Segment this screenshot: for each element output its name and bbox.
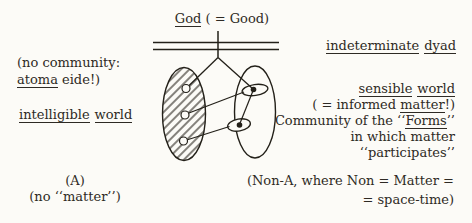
participates-line: ‘‘participates’’ — [275, 145, 455, 161]
informed-close: !) — [445, 97, 455, 112]
dyad-word-1: indeterminate — [326, 38, 419, 54]
no-community-line-2: atoma eide!) — [17, 71, 120, 88]
a-annotation: (A) (no ‘‘matter’’) — [10, 173, 140, 205]
sensible-world-line: sensibleworld — [275, 81, 455, 97]
fork-right-line — [218, 58, 253, 89]
no-community-note: (no community: atoma eide!) — [17, 54, 120, 88]
sensible-word: sensible — [359, 81, 413, 97]
god-word: God — [175, 11, 202, 27]
intelligible-word: intelligible — [19, 107, 90, 123]
god-suffix: ( = Good) — [201, 11, 269, 26]
atoma-word: atoma — [17, 72, 58, 88]
dyad-word-2: dyad — [424, 38, 456, 54]
community-open: Community of the ‘‘ — [275, 113, 406, 128]
form-node-top — [182, 85, 190, 93]
community-of-forms-line: Community of the ‘‘Forms’’ — [275, 113, 455, 129]
scanned-diagram-page: God ( = Good) indeterminatedyad (no comm… — [0, 0, 472, 223]
no-matter-label: (no ‘‘matter’’) — [10, 189, 140, 205]
community-close: ’’ — [447, 113, 455, 128]
a-label: (A) — [10, 173, 140, 189]
no-community-line-1: (no community: — [17, 54, 120, 71]
sensible-world-word: world — [417, 81, 455, 97]
forms-word: Forms — [405, 113, 446, 129]
eide-word: eide!) — [58, 72, 100, 87]
non-a-line-2: = space-time) — [247, 190, 454, 209]
matter-dot-upper — [251, 87, 257, 93]
world-word: world — [95, 107, 133, 123]
non-a-annotation: (Non-A, where Non = Matter = = space-tim… — [247, 171, 454, 209]
informed-open: ( = informed — [312, 97, 400, 112]
in-which-matter-line: in which matter — [275, 129, 455, 145]
form-node-middle — [181, 111, 189, 119]
form-node-bottom — [180, 137, 188, 145]
sensible-world-ellipse — [235, 66, 276, 158]
matter-dot-lower — [237, 122, 243, 128]
non-a-line-1: (Non-A, where Non = Matter = — [247, 171, 454, 190]
informed-matter-line: ( = informed matter!) — [275, 97, 455, 113]
god-label: God ( = Good) — [160, 11, 284, 27]
sensible-world-annotation: sensibleworld ( = informed matter!) Comm… — [275, 81, 455, 161]
indeterminate-dyad-label: indeterminatedyad — [326, 38, 456, 54]
intelligible-world-label: intelligibleworld — [19, 107, 132, 123]
matter-word: matter — [400, 97, 444, 113]
